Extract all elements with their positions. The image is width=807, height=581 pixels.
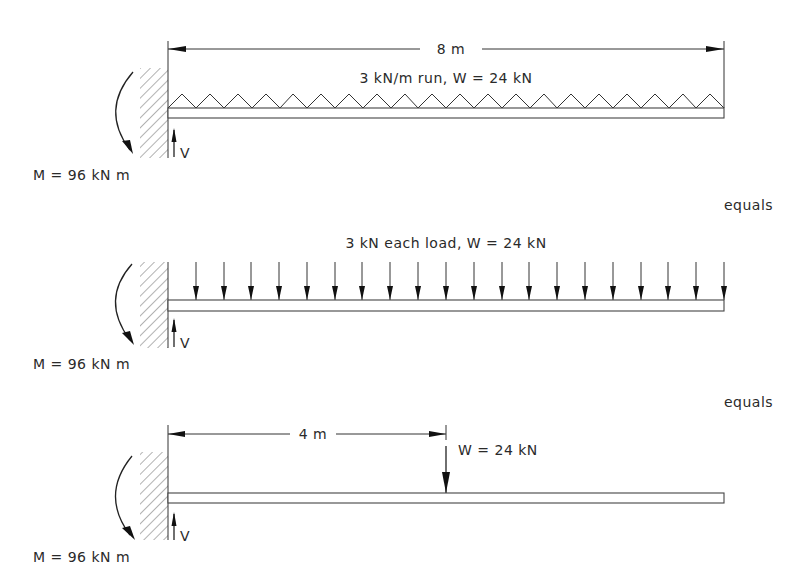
panel-uniform-load: 8 m 3 kN/m run, W = 24 kN V M = 96 kN m … (33, 41, 773, 213)
load-label: 3 kN/m run, W = 24 kN (360, 70, 533, 86)
resultant-load-arrow-icon (442, 446, 450, 493)
panel-resultant-load: 4 m W = 24 kN V M = 96 kN m (33, 425, 724, 565)
dimension-label: 8 m (437, 41, 466, 57)
shear-label: V (180, 528, 190, 544)
distributed-load-triangles (168, 94, 724, 108)
fixed-support-hatch (140, 452, 168, 540)
cantilever-diagram: 8 m 3 kN/m run, W = 24 kN V M = 96 kN m … (0, 0, 807, 581)
beam (168, 493, 724, 503)
moment-arrow-icon (115, 264, 132, 340)
dimension-4m: 4 m (168, 425, 446, 442)
moment-label: M = 96 kN m (33, 356, 130, 372)
moment-label: M = 96 kN m (33, 549, 130, 565)
fixed-support-hatch (140, 262, 168, 348)
equals-label: equals (724, 394, 773, 410)
load-label: 3 kN each load, W = 24 kN (345, 235, 546, 251)
moment-arrow-icon (116, 72, 133, 150)
beam (168, 300, 724, 311)
beam (168, 108, 724, 118)
shear-label: V (180, 145, 190, 161)
panel-point-loads: 3 kN each load, W = 24 kN (33, 235, 773, 410)
equals-label: equals (724, 197, 773, 213)
load-label: W = 24 kN (458, 442, 538, 458)
fixed-support-hatch (140, 68, 168, 158)
dimension-label: 4 m (299, 426, 328, 442)
shear-label: V (180, 335, 190, 351)
moment-arrow-icon (115, 456, 132, 535)
moment-label: M = 96 kN m (33, 167, 130, 183)
point-load-arrows (193, 262, 727, 300)
